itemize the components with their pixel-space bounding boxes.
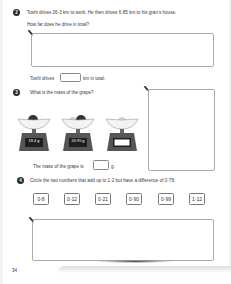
number-option[interactable]: 1·12 [189, 193, 205, 205]
worksheet-page: 2 Toshi drives 26·3 km to work. He then … [3, 0, 229, 284]
question-number-badge: 2 [13, 9, 20, 16]
scale-3 [104, 111, 140, 155]
pencil-icon [27, 30, 33, 36]
question-number-badge: 4 [17, 177, 24, 184]
working-area-box[interactable] [32, 219, 214, 261]
pencil-icon [28, 217, 34, 223]
mass-answer-input[interactable] [93, 160, 109, 170]
number-option[interactable]: 0·90 [126, 193, 142, 205]
scale-empty-display [115, 140, 130, 146]
question-text: Toshi drives 26·3 km to work. He then dr… [27, 10, 176, 15]
distance-answer-input[interactable] [60, 73, 81, 82]
working-area-box[interactable] [31, 33, 214, 67]
working-area-box[interactable] [148, 89, 215, 171]
question-subtext: How far does he drive in total? [27, 22, 89, 27]
scale-bowl [18, 119, 50, 129]
answer-suffix: km in total. [83, 76, 105, 81]
page-number: 34 [12, 268, 17, 273]
answer-prefix: Toshi drives [30, 76, 54, 81]
question-number-badge: 3 [13, 89, 20, 96]
question-text: What is the mass of the grape? [30, 90, 94, 95]
scale-display: 18·4 g [25, 139, 43, 143]
scale-display: 20·95 g [69, 139, 87, 143]
answer-suffix: g. [111, 164, 115, 169]
pencil-icon [143, 86, 149, 92]
number-option[interactable]: 0·99 [158, 193, 174, 205]
question-text: Circle the two numbers that add up to 1·… [30, 178, 175, 183]
book-page-curl [58, 266, 231, 284]
scale-1: 18·4 g [16, 111, 52, 155]
scale-2: 20·95 g [60, 111, 96, 155]
book-spine-shadow [95, 260, 175, 263]
number-option[interactable]: 0·8 [33, 193, 49, 205]
number-option[interactable]: 0·21 [95, 193, 111, 205]
number-option[interactable]: 0·12 [64, 193, 80, 205]
answer-prefix: The mass of the grape is [33, 164, 84, 169]
